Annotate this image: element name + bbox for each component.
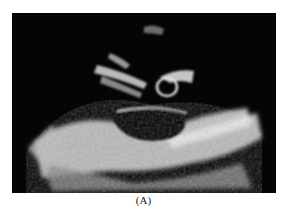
- figure-caption: (A): [0, 194, 287, 206]
- ultrasound-image: [12, 13, 276, 193]
- ultrasound-scan-graphic: [12, 13, 276, 193]
